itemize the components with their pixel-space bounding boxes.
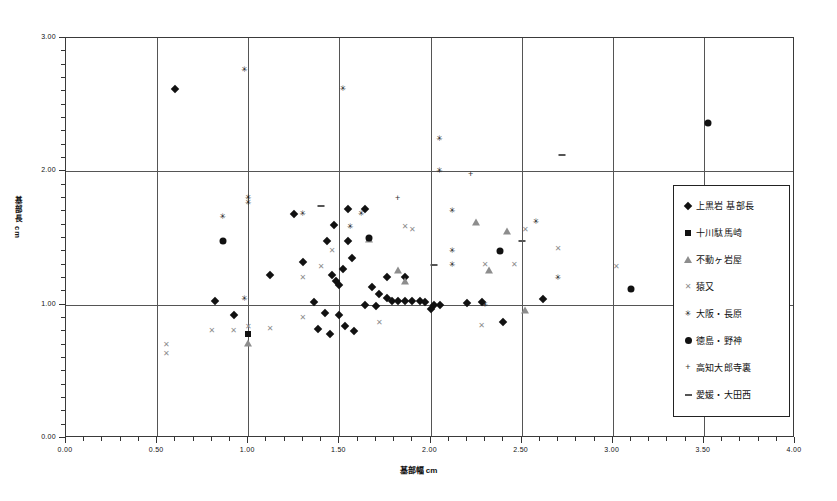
x-tick xyxy=(393,437,394,441)
x-tick xyxy=(65,437,66,443)
y-tick xyxy=(61,264,65,265)
x-tick xyxy=(703,437,704,443)
data-point xyxy=(394,267,402,274)
legend-item-5[interactable]: 徳島・野神 xyxy=(680,327,785,354)
data-point: ✕ xyxy=(555,245,562,253)
y-tick xyxy=(61,64,65,65)
data-point: ✳ xyxy=(449,261,456,269)
chart-legend: 上黒岩 基部長十川駄馬崎不動ヶ岩屋✕猿又✳大阪・長原徳島・野神+高知大郎寺裏愛媛… xyxy=(673,185,790,417)
data-point: ✕ xyxy=(208,327,215,335)
data-point: ✕ xyxy=(230,327,237,335)
data-point xyxy=(365,235,372,242)
data-point xyxy=(485,267,493,274)
y-tick xyxy=(61,317,65,318)
y-tick xyxy=(61,130,65,131)
x-tick xyxy=(575,437,576,441)
data-point xyxy=(463,299,471,307)
x-tick xyxy=(630,437,631,441)
legend-item-3[interactable]: ✕猿又 xyxy=(680,273,785,300)
legend-label: 上黒岩 基部長 xyxy=(696,199,754,212)
data-point: ✕ xyxy=(376,319,383,327)
x-tick xyxy=(685,437,686,441)
x-tick xyxy=(648,437,649,441)
plus-marker-icon: + xyxy=(680,363,696,372)
x-tick xyxy=(612,437,613,443)
legend-label: 不動ヶ岩屋 xyxy=(696,253,742,266)
x-axis-title: 基部幅 cm xyxy=(0,464,837,475)
y-tick xyxy=(61,384,65,385)
star-marker-icon: ✳ xyxy=(680,310,696,318)
x-tick-label: 2.50 xyxy=(501,446,541,453)
x-tick-label: 1.00 xyxy=(227,446,267,453)
gridline-vertical xyxy=(431,38,432,436)
y-tick xyxy=(61,290,65,291)
data-point xyxy=(318,205,325,207)
x-tick xyxy=(83,437,84,441)
data-point: ✕ xyxy=(522,226,529,234)
data-point xyxy=(408,296,416,304)
data-point: ✕ xyxy=(511,261,518,269)
data-point xyxy=(344,204,352,212)
gridline-vertical xyxy=(248,38,249,436)
x-tick-label: 1.50 xyxy=(318,446,358,453)
data-point: ✕ xyxy=(300,314,307,322)
y-tick xyxy=(61,410,65,411)
data-point xyxy=(539,295,547,303)
data-point xyxy=(627,285,634,292)
data-point xyxy=(326,330,334,338)
x-tick xyxy=(138,437,139,441)
data-point xyxy=(341,322,349,330)
data-point xyxy=(496,248,503,255)
legend-label: 高知大郎寺裏 xyxy=(696,361,751,374)
data-point: ✳ xyxy=(340,85,347,93)
x-tick xyxy=(557,437,558,441)
diamond-marker-icon xyxy=(680,203,696,209)
data-point xyxy=(219,237,226,244)
data-point xyxy=(401,277,409,284)
legend-item-1[interactable]: 十川駄馬崎 xyxy=(680,219,785,246)
square-marker-icon xyxy=(680,230,696,236)
legend-item-4[interactable]: ✳大阪・長原 xyxy=(680,300,785,327)
x-tick-label: 3.50 xyxy=(683,446,723,453)
y-tick xyxy=(61,277,65,278)
x-tick-label: 4.00 xyxy=(774,446,814,453)
x-tick xyxy=(776,437,777,441)
data-point xyxy=(361,204,369,212)
data-point: ✕ xyxy=(478,322,485,330)
y-tick xyxy=(61,144,65,145)
y-tick-label: 3.00 xyxy=(24,33,56,40)
legend-item-0[interactable]: 上黒岩 基部長 xyxy=(680,192,785,219)
data-point xyxy=(383,272,391,280)
data-point: ✕ xyxy=(482,261,489,269)
legend-item-7[interactable]: 愛媛・大田西 xyxy=(680,381,785,408)
x-tick xyxy=(430,437,431,443)
data-point: ✕ xyxy=(267,325,274,333)
data-point xyxy=(348,254,356,262)
x-tick xyxy=(174,437,175,441)
x-tick-label: 3.00 xyxy=(592,446,632,453)
y-tick xyxy=(61,330,65,331)
data-point: ✳ xyxy=(449,207,456,215)
data-point: ✳ xyxy=(219,213,226,221)
data-point xyxy=(365,236,373,243)
data-point xyxy=(558,154,565,156)
data-point xyxy=(290,210,298,218)
data-point: ✳ xyxy=(555,274,562,282)
y-tick xyxy=(61,344,65,345)
data-point: ✕ xyxy=(409,226,416,234)
data-point xyxy=(266,271,274,279)
legend-label: 愛媛・大田西 xyxy=(696,388,751,401)
data-point: ✳ xyxy=(436,135,443,143)
data-point xyxy=(322,236,330,244)
y-axis-title: 基部長 cm xyxy=(8,196,22,239)
legend-item-6[interactable]: +高知大郎寺裏 xyxy=(680,354,785,381)
y-tick xyxy=(61,237,65,238)
x-tick xyxy=(193,437,194,441)
legend-item-2[interactable]: 不動ヶ岩屋 xyxy=(680,246,785,273)
data-point xyxy=(393,296,401,304)
data-point: ✕ xyxy=(163,350,170,358)
data-point xyxy=(704,120,711,127)
legend-label: 徳島・野神 xyxy=(696,334,742,347)
x-tick xyxy=(794,437,795,443)
x-tick xyxy=(156,437,157,443)
